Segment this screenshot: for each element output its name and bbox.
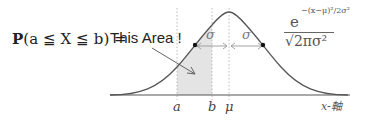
sigma-arrow-right [231,43,262,49]
pdf-exponent: −(x−μ)²/2σ² [301,6,350,15]
inflection-point-left [193,43,197,47]
pdf-denominator: √2πσ² [285,33,327,49]
tick-label-a: a [173,99,181,114]
sigma-label-right: σ [242,27,251,42]
pdf-base: e [290,13,299,31]
normal-distribution-diagram [0,0,367,121]
sigma-label-left: σ [206,27,215,42]
tick-label-b: b [208,99,216,114]
this-area-label: This Area ! [110,29,182,46]
tick-label-mu: μ [225,99,233,114]
x-axis-label: x-軸 [321,97,342,113]
inflection-point-right [261,43,265,47]
